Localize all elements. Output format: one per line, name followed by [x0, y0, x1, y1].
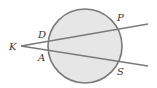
label-s: S	[117, 66, 124, 77]
label-p: P	[116, 12, 124, 23]
label-k: K	[8, 41, 17, 52]
label-d: D	[37, 29, 46, 40]
label-a: A	[37, 52, 45, 63]
secant-diagram: K D A P S	[0, 0, 157, 88]
diagram-canvas: K D A P S	[0, 0, 157, 88]
circle	[48, 9, 122, 83]
